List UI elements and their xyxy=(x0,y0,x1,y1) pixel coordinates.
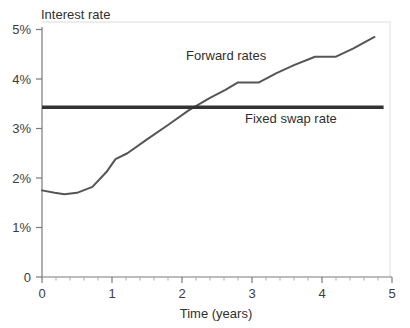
x-axis-title: Time (years) xyxy=(180,306,252,321)
interest-rate-chart: 5% 4% 3% 2% 1% 0 0 1 2 3 4 5 Interest ra… xyxy=(0,0,410,328)
x-axis-major-ticks xyxy=(42,277,392,283)
chart-canvas: 5% 4% 3% 2% 1% 0 0 1 2 3 4 5 Interest ra… xyxy=(0,0,410,328)
y-tick-label-4: 4% xyxy=(12,72,31,87)
x-tick-label-1: 1 xyxy=(108,286,115,301)
x-tick-label-2: 2 xyxy=(178,286,185,301)
y-axis-ticks xyxy=(36,30,42,278)
fixed-swap-rate-label: Fixed swap rate xyxy=(245,111,337,126)
y-axis-title: Interest rate xyxy=(41,7,110,22)
forward-rates-label: Forward rates xyxy=(186,48,267,63)
x-tick-label-0: 0 xyxy=(38,286,45,301)
x-tick-label-5: 5 xyxy=(388,286,395,301)
y-tick-label-0: 0 xyxy=(24,270,31,285)
y-tick-label-2: 2% xyxy=(12,171,31,186)
y-tick-label-3: 3% xyxy=(12,121,31,136)
y-tick-label-5: 5% xyxy=(12,22,31,37)
y-tick-label-1: 1% xyxy=(12,220,31,235)
x-tick-label-3: 3 xyxy=(248,286,255,301)
x-tick-label-4: 4 xyxy=(318,286,325,301)
